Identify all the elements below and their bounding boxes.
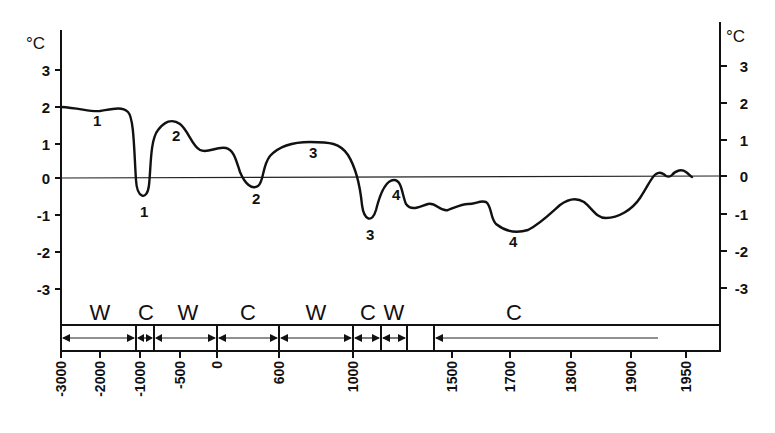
temperature-curve xyxy=(61,107,692,232)
y-tick-label: 0 xyxy=(740,168,748,185)
x-axis-ticks xyxy=(61,351,686,358)
x-tick-label: 1800 xyxy=(563,361,579,392)
period-label: C xyxy=(360,300,376,325)
y-tick-label: 1 xyxy=(42,136,50,153)
x-tick-label: 1950 xyxy=(678,361,694,392)
left-unit-label: °C xyxy=(26,34,45,53)
period-label: C xyxy=(506,300,522,325)
period-label: W xyxy=(178,300,199,325)
y-tick-label: -1 xyxy=(37,207,50,224)
curve-annotation: 1 xyxy=(93,112,101,129)
x-tick-label: 600 xyxy=(271,361,287,385)
x-tick-label: -3000 xyxy=(53,361,69,397)
y-tick-label: 3 xyxy=(42,62,50,79)
curve-annotation: 3 xyxy=(309,144,317,161)
curve-annotation: 4 xyxy=(509,233,518,250)
x-tick-label: 1700 xyxy=(502,361,518,392)
y-tick-label: -1 xyxy=(735,206,748,223)
y-tick-label: -2 xyxy=(37,244,50,261)
x-tick-label: -1000 xyxy=(132,361,148,397)
x-tick-label: 0 xyxy=(209,361,225,369)
y-tick-label: 3 xyxy=(740,58,748,75)
x-tick-label: 1900 xyxy=(623,361,639,392)
x-tick-label: 1500 xyxy=(444,361,460,392)
y-tick-label: -2 xyxy=(735,243,748,260)
y-tick-label: 1 xyxy=(740,132,748,149)
period-label: C xyxy=(240,300,256,325)
y-tick-label: 2 xyxy=(740,95,748,112)
curve-annotation: 2 xyxy=(172,127,180,144)
x-tick-label: -500 xyxy=(172,361,188,389)
curve-annotation: 3 xyxy=(366,226,374,243)
right-y-ticks: 3 2 1 0 -1 -2 -3 xyxy=(720,58,748,297)
left-y-ticks: 3 2 1 0 -1 -2 -3 xyxy=(37,62,61,298)
x-tick-label: -2000 xyxy=(92,361,108,397)
zero-reference-line xyxy=(61,176,720,178)
curve-annotation: 4 xyxy=(392,186,401,203)
y-tick-label: -3 xyxy=(37,281,50,298)
x-axis-tick-labels: -3000 -2000 -1000 -500 0 600 1000 1500 1… xyxy=(53,361,694,397)
period-labels: W C W C W C W C xyxy=(90,300,522,325)
period-label: C xyxy=(138,300,154,325)
curve-annotation: 1 xyxy=(140,203,148,220)
x-tick-label: 1000 xyxy=(345,361,361,392)
period-label: W xyxy=(306,300,327,325)
y-tick-label: 2 xyxy=(42,99,50,116)
y-tick-label: 0 xyxy=(42,170,50,187)
y-tick-label: -3 xyxy=(735,280,748,297)
temperature-chart: °C °C 3 2 1 0 -1 -2 -3 3 2 1 0 -1 -2 -3 xyxy=(0,0,775,433)
curve-annotation: 2 xyxy=(252,190,260,207)
period-label: W xyxy=(90,300,111,325)
period-timeline-box xyxy=(61,325,720,351)
period-label: W xyxy=(384,300,405,325)
right-unit-label: °C xyxy=(726,27,745,46)
